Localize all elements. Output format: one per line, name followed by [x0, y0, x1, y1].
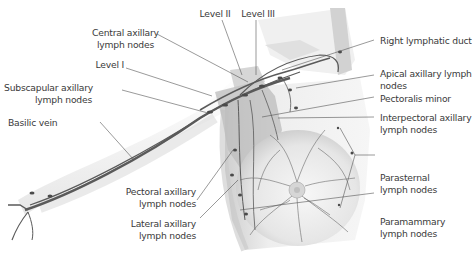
label-paramammary-lymph-nodes: Paramammary lymph nodes — [380, 216, 445, 239]
label-right-lymphatic-duct: Right lymphatic duct — [380, 35, 472, 47]
label-pectoral-axillary-lymph-nodes: Pectoral axillary lymph nodes — [120, 186, 196, 209]
label-interpectoral-axillary-lymph-nodes: Interpectoral axillary lymph nodes — [380, 112, 471, 135]
label-line: lymph nodes — [92, 39, 154, 51]
label-line: lymph nodes — [380, 184, 437, 196]
label-line: Pectoralis minor — [380, 93, 451, 105]
label-line: Level I — [80, 59, 124, 71]
label-line: Subscapular axillary — [4, 82, 92, 94]
label-basilic-vein: Basilic vein — [8, 117, 57, 129]
label-line: Paramammary — [380, 216, 445, 228]
label-line: Level II — [194, 8, 236, 20]
label-line: lymph nodes — [4, 94, 92, 106]
label-line: Lateral axillary — [120, 218, 196, 230]
label-line: Right lymphatic duct — [380, 35, 472, 47]
label-central-axillary-lymph-nodes: Central axillary lymph nodes — [92, 27, 154, 50]
label-line: Apical axillary lymph — [380, 68, 472, 80]
label-line: lymph nodes — [380, 228, 445, 240]
label-level-i: Level I — [80, 59, 124, 71]
label-line: lymph nodes — [120, 230, 196, 242]
label-line: lymph nodes — [120, 198, 196, 210]
label-level-iii: Level III — [236, 8, 280, 20]
label-subscapular-axillary-lymph-nodes: Subscapular axillary lymph nodes — [4, 82, 92, 105]
label-lateral-axillary-lymph-nodes: Lateral axillary lymph nodes — [120, 218, 196, 241]
label-line: Pectoral axillary — [120, 186, 196, 198]
label-line: Interpectoral axillary — [380, 112, 471, 124]
label-line: Parasternal — [380, 172, 437, 184]
label-level-ii: Level II — [194, 8, 236, 20]
label-line: Level III — [236, 8, 280, 20]
label-parasternal-lymph-nodes: Parasternal lymph nodes — [380, 172, 437, 195]
label-line: Basilic vein — [8, 117, 57, 129]
label-apical-axillary-lymph-nodes: Apical axillary lymph nodes — [380, 68, 472, 91]
label-line: Central axillary — [92, 27, 154, 39]
label-line: nodes — [380, 80, 472, 92]
label-line: lymph nodes — [380, 124, 471, 136]
label-pectoralis-minor: Pectoralis minor — [380, 93, 451, 105]
